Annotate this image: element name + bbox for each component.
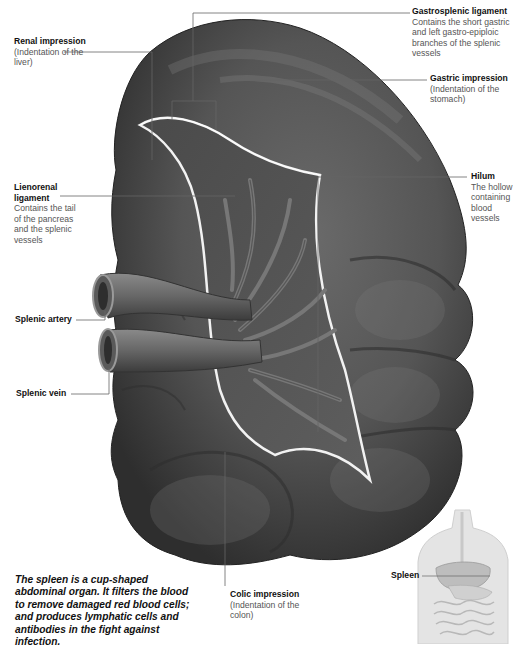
label-title: Gastrosplenic ligament xyxy=(412,6,516,17)
label-title: Colic impression xyxy=(230,589,320,600)
figure-caption: The spleen is a cup-shaped abdominal org… xyxy=(15,574,190,648)
label-gastrosplenic-ligament: Gastrosplenic ligament Contains the shor… xyxy=(412,6,516,59)
label-desc: (Indentation of the liver) xyxy=(14,47,94,68)
label-title: Lienorenal ligament xyxy=(14,182,78,203)
label-desc: (Indentation of the colon) xyxy=(230,600,320,621)
label-title: Splenic artery xyxy=(15,314,72,325)
label-desc: Contains the tail of the pancreas and th… xyxy=(14,203,78,245)
label-title: Splenic vein xyxy=(16,388,66,399)
label-hilum: Hilum The hollow containing blood vessel… xyxy=(471,171,515,224)
label-gastric-impression: Gastric impression (Indentation of the s… xyxy=(430,73,514,105)
label-splenic-artery: Splenic artery xyxy=(15,314,72,325)
label-splenic-vein: Splenic vein xyxy=(16,388,66,399)
label-desc: Contains the short gastric and left gast… xyxy=(412,17,516,59)
label-lienorenal-ligament: Lienorenal ligament Contains the tail of… xyxy=(14,182,78,246)
inset-spleen-label: Spleen xyxy=(391,570,419,580)
label-desc: (Indentation of the stomach) xyxy=(430,84,514,105)
label-colic-impression: Colic impression (Indentation of the col… xyxy=(230,589,320,621)
label-renal-impression: Renal impression (Indentation of the liv… xyxy=(14,36,94,68)
label-title: Hilum xyxy=(471,171,515,182)
label-desc: The hollow containing blood vessels xyxy=(471,182,515,224)
torso-inset xyxy=(418,510,508,644)
label-title: Renal impression xyxy=(14,36,94,47)
label-title: Gastric impression xyxy=(430,73,514,84)
